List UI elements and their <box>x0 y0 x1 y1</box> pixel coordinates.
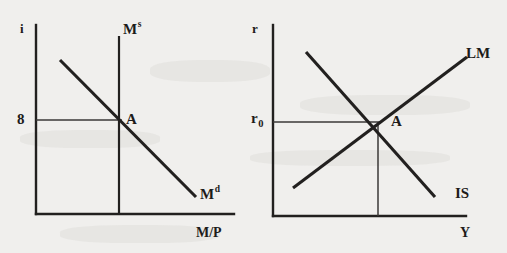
money-demand-curve <box>60 60 196 197</box>
is-curve <box>306 52 435 197</box>
left-y-tick-8: 8 <box>17 112 25 127</box>
is-curve-label: IS <box>455 186 469 201</box>
money-supply-label: Ms <box>123 21 141 37</box>
right-y-tick-base: r <box>251 110 258 126</box>
right-y-axis-label: r <box>252 22 258 35</box>
right-equilibrium-point-label: A <box>391 114 402 129</box>
money-demand-label-base: M <box>200 186 214 202</box>
figure-canvas: i Ms 8 A Md M/P r r0 A LM IS Y <box>0 0 507 253</box>
left-y-axis-label: i <box>20 22 24 35</box>
money-demand-label-superscript: d <box>215 184 220 194</box>
left-x-axis-label: M/P <box>196 226 222 240</box>
left-equilibrium-point-label: A <box>126 112 137 127</box>
money-supply-label-base: M <box>123 21 137 37</box>
right-x-axis-label: Y <box>460 226 470 240</box>
lm-curve-label: LM <box>466 46 490 61</box>
diagram-vector <box>0 0 507 253</box>
right-y-tick-subscript: 0 <box>258 118 263 129</box>
money-supply-label-superscript: s <box>138 19 142 29</box>
right-y-tick-r0: r0 <box>251 111 263 126</box>
money-demand-label: Md <box>200 186 219 202</box>
is-lm-panel <box>273 25 467 216</box>
